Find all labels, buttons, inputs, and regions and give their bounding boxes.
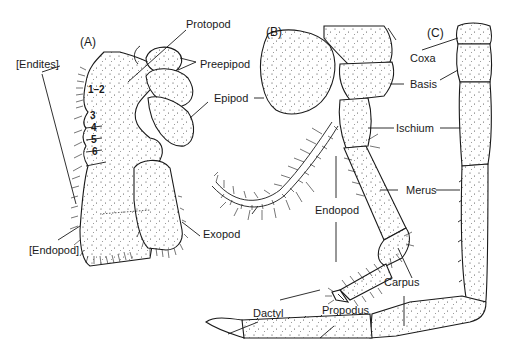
endite-number-5: 5 (91, 134, 97, 146)
panel-label-a: (A) (80, 36, 96, 48)
label-b-carpus: Carpus (384, 276, 419, 288)
endite-number-4: 4 (91, 122, 97, 134)
endite-number-3: 3 (90, 110, 96, 122)
label-b-propodus: Propodus (322, 304, 369, 316)
label-a-epipod: Epipod (214, 92, 248, 104)
label-a-endopod: [Endopod] (29, 244, 79, 256)
label-basis: Basis (410, 78, 437, 90)
label-a-protopod: Protopod (186, 18, 231, 30)
label-b-dactyl: Dactyl (253, 307, 284, 319)
label-merus: Merus (406, 184, 437, 196)
panel-label-b: (B) (266, 26, 282, 38)
panel-label-c: (C) (427, 27, 444, 39)
label-b-endopod: Endopod (315, 204, 359, 216)
label-a-exopod: Exopod (203, 228, 240, 240)
appendage-figure: (A) (B) (C) Protopod Preepipod Epipod [E… (0, 0, 506, 363)
endite-number-6: 6 (92, 146, 98, 158)
label-a-preepipod: Preepipod (200, 58, 250, 70)
label-coxa: Coxa (410, 52, 436, 64)
endite-number-1-2: 1–2 (88, 84, 105, 96)
label-ischium: Ischium (396, 122, 434, 134)
label-a-endites: [Endites] (16, 58, 59, 70)
